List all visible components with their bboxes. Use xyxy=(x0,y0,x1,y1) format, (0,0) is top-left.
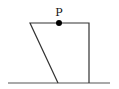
point-p-label: P xyxy=(55,6,63,19)
trapezoid-block xyxy=(30,23,89,83)
point-p-dot xyxy=(56,20,62,26)
diagram-canvas: P xyxy=(0,0,119,89)
